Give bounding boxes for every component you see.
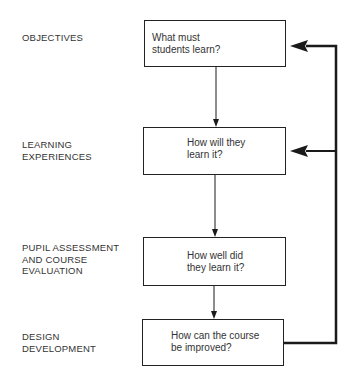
arrow-down-icon — [211, 286, 217, 319]
arrow-left-icon — [290, 145, 308, 157]
arrow-left-icon — [290, 40, 308, 52]
feedback-loop — [284, 40, 336, 343]
arrow-down-icon — [212, 175, 218, 237]
connector-lines — [0, 0, 354, 385]
arrow-down-icon — [213, 67, 219, 127]
